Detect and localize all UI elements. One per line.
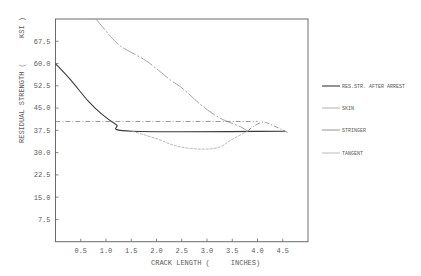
y-tick-label: 52.5 xyxy=(34,82,51,90)
y-tick-label: 45.0 xyxy=(34,104,51,112)
y-axis-label: RESIDUAL STRENGTH ( KSI ) xyxy=(18,17,26,143)
x-tick-label: 3.0 xyxy=(201,247,214,255)
x-tick-label: 4.5 xyxy=(276,247,289,255)
x-tick-label: 3.5 xyxy=(226,247,239,255)
y-tick-label: 30.0 xyxy=(34,149,51,157)
legend-label: TANGENT xyxy=(342,151,363,157)
x-tick-label: 0.5 xyxy=(74,247,87,255)
x-tick-label: 2.0 xyxy=(150,247,163,255)
y-tick-label: 15.0 xyxy=(34,194,51,202)
x-tick-label: 2.5 xyxy=(175,247,188,255)
y-tick-label: 60.0 xyxy=(34,60,51,68)
chart-background xyxy=(0,0,421,276)
legend-label: STRINGER xyxy=(342,128,366,134)
x-tick-label: 1.5 xyxy=(125,247,138,255)
legend-label: SKIN xyxy=(342,106,354,112)
y-tick-label: 22.5 xyxy=(34,171,51,179)
residual-strength-chart: 7.515.022.530.037.545.052.560.067.5 0.51… xyxy=(0,0,421,276)
legend-label: RES.STR. AFTER ARREST xyxy=(342,84,405,90)
x-tick-label: 4.0 xyxy=(251,247,264,255)
x-tick-label: 1.0 xyxy=(100,247,113,255)
y-tick-label: 67.5 xyxy=(34,38,51,46)
y-tick-label: 37.5 xyxy=(34,127,51,135)
x-axis-label: CRACK LENGTH ( INCHES) xyxy=(151,259,260,267)
y-tick-label: 7.5 xyxy=(38,216,51,224)
